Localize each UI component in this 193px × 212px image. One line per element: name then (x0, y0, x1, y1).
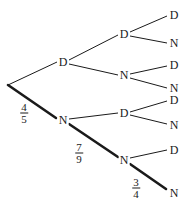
edge-root-D (8, 62, 57, 85)
node-label: N (119, 154, 130, 166)
edge-DN-N (130, 78, 167, 88)
edge-DD-D (130, 16, 167, 32)
node-label: N (169, 37, 180, 49)
edge-root-N-bold (8, 85, 56, 118)
node-label: N (169, 187, 180, 199)
edge-ND-D (130, 101, 167, 112)
node-label: D (169, 9, 180, 21)
tree-edges (0, 0, 193, 212)
fraction-denominator: 9 (75, 154, 83, 165)
edge-D-D (69, 35, 118, 60)
edge-DN-D (130, 66, 167, 74)
probability-label: 4 5 (20, 102, 28, 125)
edge-DD-N (130, 36, 167, 43)
edge-N-D (69, 113, 118, 119)
node-label: D (119, 28, 130, 40)
fraction-denominator: 5 (20, 114, 28, 125)
edge-NN-D (130, 150, 167, 158)
node-label: D (169, 94, 180, 106)
probability-label: 3 4 (132, 177, 140, 200)
node-label: N (58, 114, 69, 126)
node-label: D (169, 144, 180, 156)
node-label: D (119, 107, 130, 119)
fraction-denominator: 4 (132, 189, 140, 200)
node-label: N (119, 69, 130, 81)
node-label: D (169, 59, 180, 71)
node-label: D (58, 56, 69, 68)
edge-ND-N (130, 115, 167, 124)
node-label: N (169, 119, 180, 131)
probability-label: 7 9 (75, 142, 83, 165)
edge-D-N (69, 64, 118, 75)
